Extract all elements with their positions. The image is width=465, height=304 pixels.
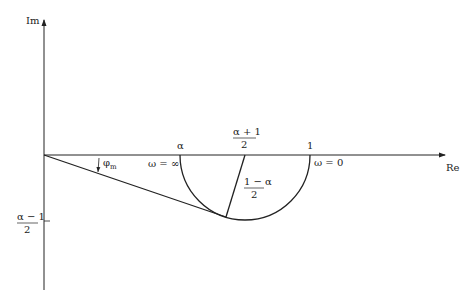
alpha-label: α (177, 140, 184, 151)
imag-axis-label: Im (26, 15, 40, 26)
center-numerator: α + 1 (233, 126, 261, 137)
omega-infinity-label: ω = ∞ (148, 158, 179, 169)
angle-arc-arrow (98, 158, 99, 172)
radius-denominator: 2 (251, 189, 257, 200)
real-axis-label: Re (446, 162, 460, 173)
nyquist-semicircle (180, 155, 310, 220)
nyquist-diagram: Im Re α 1 α + 1 2 ω = ∞ ω = 0 1 − α 2 α … (0, 0, 465, 304)
imag-tick-numerator: α − 1 (17, 211, 45, 222)
omega-zero-label: ω = 0 (314, 157, 343, 168)
radius-line (226, 155, 245, 217)
center-denominator: 2 (241, 139, 247, 150)
one-label: 1 (307, 140, 313, 151)
angle-label-subscript: m (110, 163, 117, 171)
imag-tick-denominator: 2 (24, 224, 30, 235)
radius-numerator: 1 − α (244, 176, 272, 187)
angle-label: φ (103, 157, 110, 168)
tangent-line (44, 155, 226, 217)
